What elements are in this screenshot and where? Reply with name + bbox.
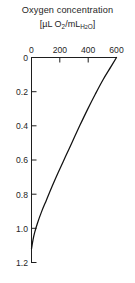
x-axis-top	[32, 58, 117, 63]
y-tick-label-0-2: 0.2	[16, 87, 28, 97]
figure-caption	[0, 272, 135, 282]
y-tick-label-1-0: 1.0	[16, 224, 28, 234]
y-tick-label-0-4: 0.4	[16, 121, 28, 131]
y-tick-label-0: 0	[23, 53, 28, 63]
y-tick-label-0-8: 0.8	[16, 190, 28, 200]
x-tick-label-0: 0	[29, 45, 34, 55]
y-tick-labels: 0 0.2 0.4 0.6 0.8 1.0 1.2	[16, 53, 28, 268]
y-tick-label-1-2: 1.2	[16, 258, 28, 268]
x-tick-label-600: 600	[109, 45, 124, 55]
oxygen-profile-curve	[32, 58, 117, 249]
x-tick-label-200: 200	[53, 45, 68, 55]
x-tick-labels: 0 200 400 600	[29, 45, 124, 55]
y-axis-left	[32, 58, 37, 263]
chart-plot-area: 0 200 400 600 0 0.2 0.4 0.6 0.8 1.0 1.2	[0, 0, 135, 283]
x-tick-label-400: 400	[81, 45, 96, 55]
figure-container: Oxygen concentration [µL O2/mLH2O] 0 200…	[0, 0, 135, 283]
y-tick-label-0-6: 0.6	[16, 155, 28, 165]
